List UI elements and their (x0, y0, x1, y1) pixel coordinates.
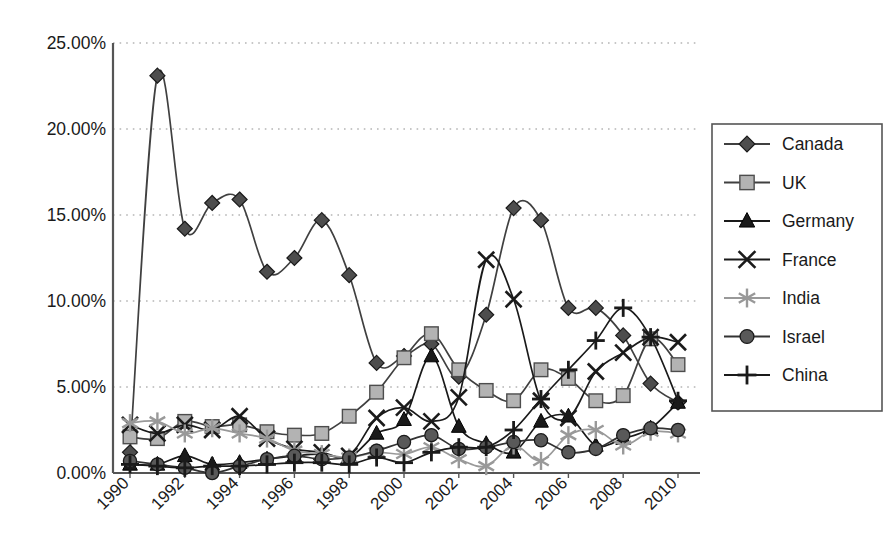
series-layer (121, 68, 687, 479)
legend-label: India (782, 288, 820, 308)
y-tick-label: 0.00% (56, 463, 106, 483)
marker-square (370, 385, 384, 399)
marker-diamond (588, 300, 603, 315)
marker-triangle (451, 419, 466, 433)
gridlines (113, 43, 700, 387)
marker-circle (644, 422, 657, 435)
x-tick-label: 2006 (531, 473, 571, 513)
marker-circle (740, 330, 754, 344)
legend-label: Israel (782, 327, 825, 347)
marker-diamond (479, 307, 494, 322)
x-tick-label: 1996 (257, 473, 297, 513)
marker-diamond (342, 268, 357, 283)
marker-square (425, 327, 439, 341)
legend-label: China (782, 365, 828, 385)
marker-circle (617, 429, 630, 442)
marker-square (740, 175, 754, 189)
marker-square (397, 351, 411, 365)
marker-square (589, 394, 603, 408)
x-tick-label: 2008 (586, 473, 626, 513)
marker-circle (534, 434, 547, 447)
marker-circle (671, 423, 684, 436)
legend-label: Germany (782, 211, 854, 231)
x-tick-label: 1998 (312, 473, 352, 513)
marker-circle (562, 446, 575, 459)
marker-circle (425, 429, 438, 442)
y-tick-label: 15.00% (47, 205, 106, 225)
marker-triangle (534, 413, 549, 427)
marker-square (616, 389, 630, 403)
legend[interactable]: CanadaUKGermanyFranceIndiaIsraelChina (712, 124, 882, 411)
marker-triangle (369, 425, 384, 439)
y-tick-label: 20.00% (47, 119, 106, 139)
x-tick-label: 2000 (367, 473, 407, 513)
marker-square (315, 427, 329, 441)
marker-square (507, 394, 521, 408)
marker-diamond (260, 264, 275, 279)
y-axis-tick-labels: 0.00%5.00%10.00%15.00%20.00%25.00% (47, 33, 106, 483)
marker-square (671, 358, 685, 372)
marker-square (288, 428, 302, 442)
y-tick-label: 25.00% (47, 33, 106, 53)
marker-square (342, 409, 356, 423)
x-tick-label: 2002 (421, 473, 461, 513)
marker-diamond (150, 68, 165, 83)
marker-circle (397, 435, 410, 448)
x-tick-label: 1992 (147, 473, 187, 513)
marker-circle (589, 442, 602, 455)
line-chart: 0.00%5.00%10.00%15.00%20.00%25.00% 19901… (0, 0, 894, 560)
marker-square (479, 384, 493, 398)
x-tick-label: 2010 (641, 473, 681, 513)
chart-root: 0.00%5.00%10.00%15.00%20.00%25.00% 19901… (0, 0, 894, 560)
y-tick-label: 10.00% (47, 291, 106, 311)
marker-square (534, 363, 548, 377)
legend-label: UK (782, 173, 807, 193)
x-tick-label: 2004 (476, 473, 516, 513)
x-tick-label: 1994 (202, 473, 242, 513)
x-axis-tick-labels: 1990199219941996199820002002200420062008… (93, 473, 681, 514)
y-tick-label: 5.00% (56, 377, 106, 397)
legend-label: Canada (782, 134, 844, 154)
legend-label: France (782, 250, 836, 270)
marker-diamond (616, 328, 631, 343)
